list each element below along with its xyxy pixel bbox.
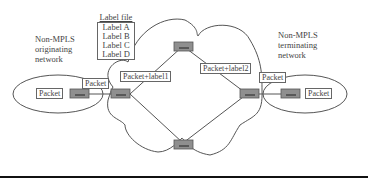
bottom-rule [0,176,368,178]
router-icon [111,89,130,98]
router-icon [281,89,300,98]
label-line: terminating [278,40,318,50]
packet-box-right-host: Packet [305,88,332,99]
label-file-list: Label A Label B Label C Label D [97,22,135,60]
label-line: originating [35,44,75,54]
packet-box-right-link: Packet [259,72,286,83]
label-entry: Label D [98,50,134,59]
packet-box-label2: Packet+label2 [200,63,251,74]
label-line: Non-MPLS [278,30,318,40]
label-line: network [35,54,75,64]
router-icon [174,42,193,51]
packet-box-left-host: Packet [36,88,63,99]
router-icon [240,89,259,98]
label-file-title: Label file [97,13,135,22]
label-file: Label file Label A Label B Label C Label… [97,13,135,60]
terminating-network-label: Non-MPLS terminating network [278,30,318,60]
packet-box-label1: Packet+label1 [120,71,171,82]
router-icon [70,89,89,98]
router-icon [174,140,193,149]
packet-box-left-link: Packet [82,78,109,89]
originating-network-label: Non-MPLS originating network [35,34,75,64]
label-line: Non-MPLS [35,34,75,44]
label-line: network [278,50,318,60]
